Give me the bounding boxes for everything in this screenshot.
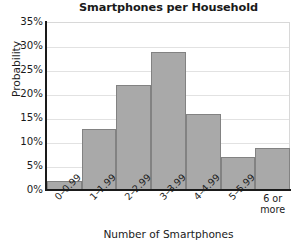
plot-area xyxy=(47,22,290,190)
y-tick-label: 30% xyxy=(7,41,43,51)
x-tick-label: 6 ormore xyxy=(249,194,297,215)
bar-series xyxy=(47,23,290,191)
y-tick-label: 15% xyxy=(7,113,43,123)
x-axis-title: Number of Smartphones xyxy=(47,228,290,240)
y-tick-label: 10% xyxy=(7,137,43,147)
chart-title: Smartphones per Household xyxy=(47,1,290,15)
bar xyxy=(255,148,290,191)
histogram-chart: Smartphones per Household Probability 0%… xyxy=(0,0,306,247)
y-axis-line xyxy=(45,21,47,191)
y-tick-label: 5% xyxy=(7,161,43,171)
y-tick-label: 35% xyxy=(7,17,43,27)
x-tick-label-line: 6 or xyxy=(249,194,297,205)
y-tick-label: 20% xyxy=(7,89,43,99)
x-tick-label-line: more xyxy=(249,205,297,216)
y-tick-label: 25% xyxy=(7,65,43,75)
y-tick-label: 0% xyxy=(7,185,43,195)
bar xyxy=(151,52,186,191)
